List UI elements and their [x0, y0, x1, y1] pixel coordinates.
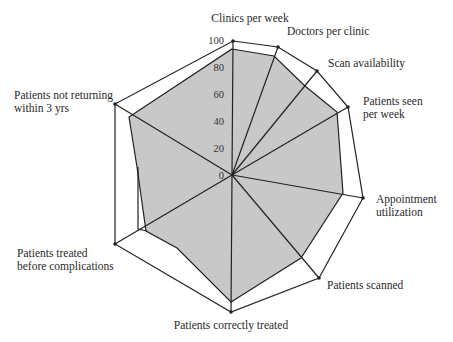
axis-label: Patients scanned [327, 279, 404, 291]
tick-label: 0 [219, 170, 224, 181]
tick-label: 40 [214, 116, 225, 127]
tick-label: 100 [208, 35, 224, 46]
radar-chart: 020406080100 Clinics per weekDoctors per… [0, 0, 453, 342]
vertex-dot [231, 39, 235, 43]
axis-label: Doctors per clinic [287, 25, 369, 38]
axis-label: Clinics per week [211, 12, 289, 25]
tick-label: 20 [214, 143, 225, 154]
vertex-dot [315, 69, 319, 73]
vertex-dot [113, 102, 117, 106]
vertex-dot [113, 242, 117, 246]
vertex-dot [276, 45, 280, 49]
axis-label: Patients correctly treated [174, 319, 289, 332]
axis-label: Patients seenper week [363, 95, 423, 121]
vertex-dot [229, 310, 233, 314]
tick-label: 60 [214, 89, 225, 100]
vertex-dot [317, 276, 321, 280]
axis-label: Appointmentutilization [376, 193, 437, 218]
vertex-dot [361, 196, 365, 200]
axis-label: Patients not returningwithin 3 yrs [14, 89, 113, 115]
axis-label: Patients treatedbefore complications [17, 247, 114, 273]
tick-label: 80 [214, 62, 225, 73]
axis-label: Scan availability [328, 57, 405, 70]
vertex-dot [346, 105, 350, 109]
